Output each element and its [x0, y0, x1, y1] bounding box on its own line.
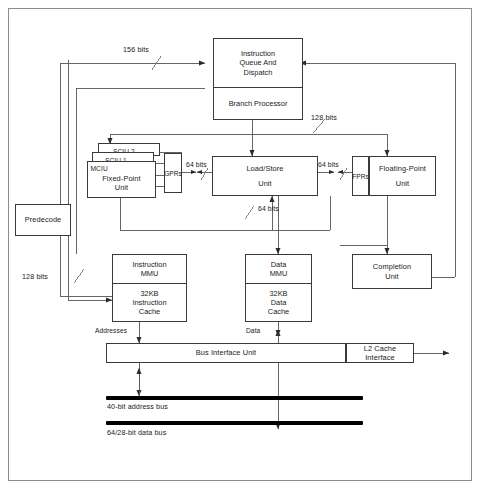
- floating-point-unit-block[interactable]: Floating-Point Unit: [369, 156, 436, 196]
- label-addresses: Addresses: [95, 327, 127, 334]
- predecode-label: Predecode: [25, 215, 62, 224]
- label-128-bits-top: 128 bits: [311, 113, 337, 122]
- data-bus-bar: [106, 421, 363, 425]
- diagram-canvas: Instruction Queue And Dispatch Branch Pr…: [0, 0, 485, 499]
- load-store-line2: Unit: [258, 179, 272, 188]
- mciu-label: MCIU: [91, 164, 108, 173]
- instruction-queue-dispatch-block[interactable]: Instruction Queue And Dispatch Branch Pr…: [213, 38, 303, 120]
- instruction-queue-line3: Dispatch: [244, 68, 273, 77]
- fprs-label: FPRs: [352, 173, 368, 180]
- label-data-bus: 64/28-bit data bus: [107, 428, 166, 437]
- label-address-bus: 40-bit address bus: [107, 402, 168, 411]
- completion-unit-line2: Unit: [385, 272, 399, 281]
- gprs-register-file[interactable]: GPRs: [164, 153, 182, 193]
- fixed-point-unit-line1: Fixed-Point: [102, 174, 140, 183]
- predecode-block[interactable]: Predecode: [15, 204, 71, 236]
- load-store-unit-block[interactable]: Load/Store Unit: [212, 156, 318, 196]
- instruction-cache-line2: Instruction: [132, 298, 166, 307]
- bus-interface-unit-label: Bus Interface Unit: [196, 348, 257, 357]
- instruction-mmu-block[interactable]: Instruction MMU 32KB Instruction Cache: [112, 254, 187, 322]
- fpu-line1: Floating-Point: [379, 164, 426, 173]
- data-cache-line3: Cache: [268, 307, 289, 316]
- data-cache-line1: 32KB: [269, 289, 287, 298]
- label-128-bits-left: 128 bits: [22, 272, 48, 281]
- instruction-mmu-cell: Instruction MMU: [113, 255, 186, 283]
- data-mmu-block[interactable]: Data MMU 32KB Data Cache: [245, 254, 312, 322]
- completion-unit-line1: Completion: [373, 262, 411, 271]
- instruction-cache-line3: Cache: [139, 307, 160, 316]
- instruction-queue-line2: Queue And: [240, 58, 277, 67]
- l2-cache-line2: Interface: [365, 353, 395, 362]
- label-156-bits: 156 bits: [123, 45, 149, 54]
- label-64-bits-lsu: 64 bits: [258, 205, 279, 212]
- instruction-mmu-line2: MMU: [141, 269, 159, 278]
- data-mmu-cell: Data MMU: [246, 255, 311, 283]
- instruction-mmu-line1: Instruction: [132, 260, 166, 269]
- instruction-cache-cell: 32KB Instruction Cache: [113, 283, 186, 321]
- label-64-bits-gpr: 64 bits: [186, 161, 207, 168]
- data-cache-cell: 32KB Data Cache: [246, 283, 311, 321]
- fprs-register-file[interactable]: FPRs: [352, 156, 369, 196]
- gprs-label: GPRs: [164, 170, 182, 177]
- label-data: Data: [246, 327, 260, 334]
- instruction-cache-line1: 32KB: [140, 289, 158, 298]
- branch-processor-cell: Branch Processor: [214, 87, 302, 119]
- data-cache-line2: Data: [271, 298, 287, 307]
- load-store-line1: Load/Store: [246, 164, 283, 173]
- instruction-queue-line1: Instruction: [241, 49, 275, 58]
- fixed-point-unit-line2: Unit: [115, 183, 129, 192]
- fpu-line2: Unit: [396, 179, 410, 188]
- branch-processor-label: Branch Processor: [229, 99, 288, 108]
- address-bus-bar: [106, 396, 363, 400]
- label-64-bits-fpr: 64 bits: [318, 161, 339, 168]
- data-mmu-line2: MMU: [270, 269, 288, 278]
- instruction-queue-cell: Instruction Queue And Dispatch: [214, 39, 302, 87]
- completion-unit-block[interactable]: Completion Unit: [352, 254, 432, 289]
- l2-cache-line1: L2 Cache: [364, 344, 396, 353]
- fixed-point-unit-block[interactable]: MCIU Fixed-Point Unit: [87, 161, 156, 198]
- data-mmu-line1: Data: [271, 260, 287, 269]
- l2-cache-interface-block[interactable]: L2 Cache Interface: [346, 343, 414, 363]
- bus-interface-unit-block[interactable]: Bus Interface Unit: [106, 343, 346, 363]
